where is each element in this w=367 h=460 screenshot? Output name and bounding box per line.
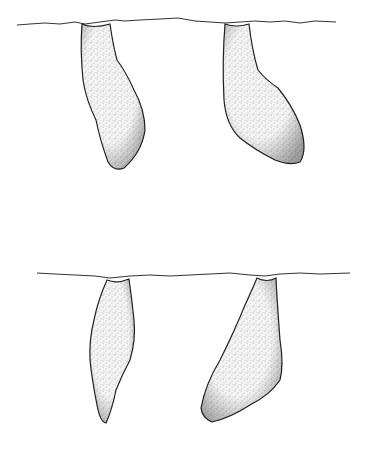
- top-panel: [17, 18, 336, 169]
- burrow-bottom-left: [90, 279, 135, 423]
- illustration: [0, 0, 367, 460]
- burrow-top-right: [223, 24, 304, 164]
- ground-line-top: [17, 18, 336, 25]
- burrow-bottom-right: [201, 278, 282, 422]
- burrow-top-left: [81, 24, 145, 169]
- ground-line-bottom: [37, 273, 350, 278]
- bottom-panel: [37, 273, 350, 423]
